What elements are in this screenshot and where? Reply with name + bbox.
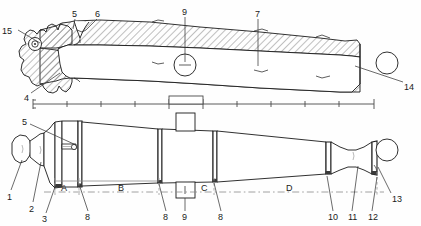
leader-1 [11,160,22,190]
callout-label-14: 14 [404,83,414,92]
callout-label-8a: 8 [85,213,90,222]
callout-label-8c: 8 [218,213,223,222]
cascabel-knob [12,135,31,163]
muzzle-band-10 [326,142,331,174]
callout-label-1: 1 [7,193,12,202]
leader-13 [378,167,391,193]
leader-10 [327,176,333,211]
leader-11 [352,166,358,211]
callout-label-12: 12 [368,213,378,222]
leader-3 [46,187,55,213]
trunnion-block-C [162,129,213,183]
leader-8b [159,184,166,211]
vent-tube-assembly [62,144,77,150]
callout-label-4: 4 [24,94,29,103]
callout-label-7: 7 [255,10,260,19]
callout-label-5-bottom: 5 [22,118,27,127]
leader-12 [372,177,377,211]
leader-8c [214,183,221,211]
reinforce-band-8c [213,131,217,182]
reinforce-band-8a [78,121,82,187]
cascabel-neck [30,133,44,166]
callout-label-2: 2 [29,205,34,214]
scale-bar-unit-block [169,96,203,104]
muzzle-swell-11 [331,142,372,174]
callout-label-6: 6 [95,10,100,19]
breech-face-plate [55,121,62,188]
callout-label-8b: 8 [163,213,168,222]
chase-section-D [217,131,326,182]
trunnion-lug-top [176,113,195,131]
cascabel-detail-ring [29,38,42,51]
leader-8a [80,187,88,211]
sectional-view-group [19,20,398,93]
callout-label-3: 3 [42,215,47,224]
callout-label-11: 11 [348,213,357,222]
trunnion-lug-bottom [176,182,195,198]
callout-label-5-top: 5 [72,10,77,19]
callout-label-10: 10 [328,213,338,222]
reinforce-band-8b [158,129,162,183]
leader-2 [33,162,41,202]
callout-label-13: 13 [392,195,402,204]
segment-label-A: A [61,184,67,193]
callout-label-9-top: 9 [182,8,187,17]
segment-label-C: C [201,184,208,193]
section-circle-top [376,52,398,74]
drawing-canvas: 15 5 6 9 7 14 4 5 1 2 3 8 8 9 8 10 11 12… [0,0,421,226]
breech-section-A [62,121,78,187]
callout-label-9-bottom: 9 [182,213,187,222]
scale-bar-group [33,96,374,109]
callout-label-15: 15 [2,27,12,36]
segment-label-D: D [286,184,293,193]
barrel-section-B [82,122,158,186]
segment-label-B: B [118,184,124,193]
breech-base-ring [44,122,55,188]
section-circle-bottom [376,139,398,161]
